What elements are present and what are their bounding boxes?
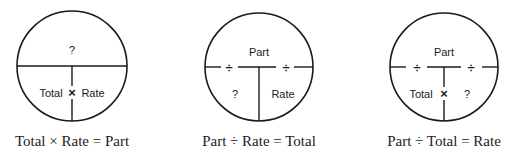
formula-diagrams: ? Total × Rate Total × Rate = Part ÷ ÷ P… [0,0,516,155]
bottom-left-label: Total [39,87,62,99]
bottom-right-label: ? [464,88,470,100]
diagram-total-times-rate: ? Total × Rate Total × Rate = Part [15,11,130,149]
top-label: ? [69,44,75,56]
multiply-icon: × [68,85,76,100]
multiply-icon: × [440,86,448,101]
top-label: Part [434,46,454,58]
bottom-right-label: Rate [271,88,294,100]
diagram-part-divided-by-total: ÷ ÷ Part Total × ? Part ÷ Total = Rate [387,13,501,149]
top-label: Part [249,46,269,58]
divide-icon-left: ÷ [413,60,420,75]
bottom-left-label: ? [232,88,238,100]
formula-caption: Part ÷ Rate = Total [202,133,316,149]
formula-caption: Total × Rate = Part [15,133,130,149]
formula-caption: Part ÷ Total = Rate [387,133,501,149]
bottom-right-label: Rate [81,87,104,99]
divide-icon-left: ÷ [225,60,232,75]
divide-icon-right: ÷ [467,60,474,75]
diagram-part-divided-by-rate: ÷ ÷ Part ? Rate Part ÷ Rate = Total [202,13,316,149]
divide-icon-right: ÷ [282,60,289,75]
bottom-left-label: Total [409,88,432,100]
